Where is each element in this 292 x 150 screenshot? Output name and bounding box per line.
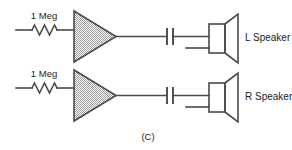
amplifier-right — [74, 70, 116, 121]
speaker-body-left — [209, 24, 225, 53]
figure-caption: (C) — [141, 131, 154, 142]
resistor-label-right: 1 Meg — [31, 68, 57, 79]
speaker-body-right — [209, 83, 225, 112]
speaker-label-left: L Speaker — [245, 32, 291, 43]
resistor-right — [32, 83, 57, 93]
speaker-label-right: R Speaker — [245, 91, 292, 102]
amplifier-left — [74, 11, 116, 62]
resistor-label-left: 1 Meg — [31, 10, 57, 21]
resistor-left — [32, 25, 57, 35]
speaker-cone-left — [225, 14, 238, 63]
schematic-figure: 1 Meg L Speaker — [0, 0, 292, 150]
channel-right: 1 Meg R Speaker — [16, 68, 292, 122]
circuit-diagram: 1 Meg L Speaker — [0, 0, 292, 150]
speaker-cone-right — [225, 73, 238, 122]
channel-left: 1 Meg L Speaker — [16, 10, 291, 63]
